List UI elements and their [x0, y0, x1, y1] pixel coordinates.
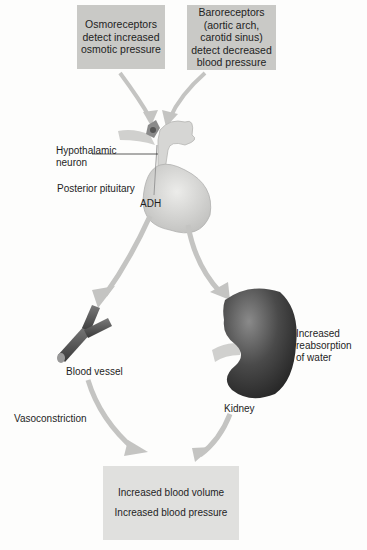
box-line: Increased blood pressure [115, 503, 228, 523]
box-line: osmotic pressure [81, 43, 161, 56]
kidney-illustration [212, 288, 297, 398]
vasoconstriction-label: Vasoconstriction [14, 413, 87, 425]
box-line: Osmoreceptors [85, 18, 157, 31]
kidney-label: Kidney [224, 403, 255, 415]
box-line: Increased blood volume [118, 483, 224, 503]
arrow-osmo-to-hypothalamus [120, 73, 150, 118]
arrow-vessel-to-outcome [88, 380, 135, 450]
box-line: carotid sinus) [200, 31, 262, 44]
box-line: detect increased [82, 31, 159, 44]
pituitary-illustration [118, 120, 211, 233]
posterior-pituitary-label: Posterior pituitary [57, 183, 135, 195]
baroreceptors-box: Baroreceptors (aortic arch, carotid sinu… [187, 5, 276, 70]
box-line: detect decreased [191, 44, 272, 57]
arrow-to-blood-vessel [105, 216, 150, 295]
blood-vessel-label: Blood vessel [66, 366, 123, 378]
blood-vessel-illustration [57, 305, 112, 363]
box-line: blood pressure [197, 56, 266, 69]
hypothalamic-neuron-label: Hypothalamic neuron [56, 145, 117, 169]
osmoreceptors-box: Osmoreceptors detect increased osmotic p… [77, 5, 165, 69]
reabsorption-label: Increased reabsorption of water [296, 328, 352, 364]
arrow-to-kidney [188, 225, 220, 292]
box-line: Baroreceptors [199, 6, 265, 19]
adh-label: ADH [140, 198, 161, 210]
outcome-box: Increased blood volume Increased blood p… [103, 466, 239, 540]
box-line: (aortic arch, [204, 19, 259, 32]
arrow-baro-to-hypothalamus [170, 73, 205, 118]
